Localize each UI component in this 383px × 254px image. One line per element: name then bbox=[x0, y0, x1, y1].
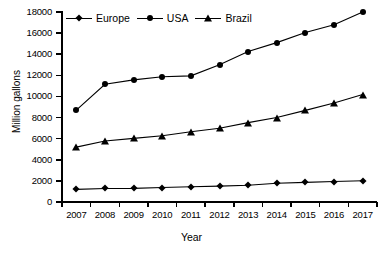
data-point-usa-2010 bbox=[159, 74, 165, 80]
legend-line-europe bbox=[66, 18, 92, 19]
legend-item-brazil: Brazil bbox=[195, 13, 258, 24]
y-tick-label: 4000 bbox=[0, 155, 52, 165]
data-point-brazil-2010 bbox=[158, 132, 166, 139]
x-tick bbox=[204, 202, 206, 207]
y-tick bbox=[56, 117, 61, 119]
data-point-usa-2009 bbox=[131, 77, 137, 83]
data-point-brazil-2007 bbox=[72, 144, 80, 151]
y-tick-label: 12000 bbox=[0, 70, 52, 80]
chart-legend: Europe USA Brazil bbox=[66, 13, 259, 24]
data-point-brazil-2014 bbox=[273, 114, 281, 121]
y-tick bbox=[56, 138, 61, 140]
x-tick bbox=[233, 202, 235, 207]
y-tick bbox=[56, 11, 61, 13]
data-point-usa-2013 bbox=[245, 49, 251, 55]
x-tick bbox=[348, 202, 350, 207]
legend-item-usa: USA bbox=[137, 13, 196, 24]
y-tick-label: 6000 bbox=[0, 134, 52, 144]
data-point-brazil-2013 bbox=[244, 119, 252, 126]
x-tick bbox=[262, 202, 264, 207]
data-point-usa-2016 bbox=[331, 22, 337, 28]
series-lines bbox=[62, 12, 377, 202]
x-tick bbox=[147, 202, 149, 207]
x-axis-line bbox=[61, 201, 377, 203]
y-tick-label: 18000 bbox=[0, 7, 52, 17]
data-point-brazil-2008 bbox=[101, 137, 109, 144]
y-tick bbox=[56, 53, 61, 55]
series-line-brazil bbox=[76, 95, 362, 148]
x-tick bbox=[290, 202, 292, 207]
data-point-usa-2011 bbox=[188, 73, 194, 79]
legend-line-usa bbox=[137, 18, 163, 19]
triangle-marker-icon bbox=[204, 15, 212, 22]
data-point-brazil-2012 bbox=[216, 125, 224, 132]
plot-area bbox=[62, 12, 377, 202]
x-axis-title: Year bbox=[0, 231, 383, 243]
x-tick bbox=[376, 202, 378, 207]
data-point-usa-2007 bbox=[73, 107, 79, 113]
x-tick-label: 2017 bbox=[346, 210, 380, 220]
line-chart: 0200040006000800010000120001400016000180… bbox=[0, 0, 383, 254]
x-tick bbox=[319, 202, 321, 207]
x-tick bbox=[176, 202, 178, 207]
diamond-marker-icon bbox=[75, 15, 82, 22]
data-point-brazil-2009 bbox=[130, 135, 138, 142]
data-point-brazil-2016 bbox=[330, 99, 338, 106]
legend-label-brazil: Brazil bbox=[225, 13, 251, 24]
y-tick-label: 14000 bbox=[0, 49, 52, 59]
y-tick-label: 8000 bbox=[0, 113, 52, 123]
data-point-usa-2014 bbox=[274, 40, 280, 46]
y-axis-title: Million gallons bbox=[11, 42, 22, 162]
data-point-usa-2012 bbox=[217, 62, 223, 68]
y-tick-label: 10000 bbox=[0, 91, 52, 101]
y-tick bbox=[56, 180, 61, 182]
legend-label-usa: USA bbox=[167, 13, 189, 24]
legend-item-europe: Europe bbox=[66, 13, 137, 24]
y-tick bbox=[56, 96, 61, 98]
y-tick bbox=[56, 75, 61, 77]
circle-marker-icon bbox=[147, 15, 153, 21]
y-axis-line bbox=[61, 11, 63, 203]
data-point-brazil-2011 bbox=[187, 128, 195, 135]
data-point-usa-2017 bbox=[360, 9, 366, 15]
y-tick-label: 2000 bbox=[0, 176, 52, 186]
legend-label-europe: Europe bbox=[96, 13, 130, 24]
data-point-brazil-2015 bbox=[301, 107, 309, 114]
y-tick-label: 16000 bbox=[0, 28, 52, 38]
data-point-usa-2008 bbox=[102, 81, 108, 87]
y-tick bbox=[56, 159, 61, 161]
y-tick bbox=[56, 201, 61, 203]
legend-line-brazil bbox=[195, 18, 221, 19]
x-tick bbox=[119, 202, 121, 207]
y-tick bbox=[56, 32, 61, 34]
y-tick-label: 0 bbox=[0, 197, 52, 207]
data-point-usa-2015 bbox=[302, 30, 308, 36]
data-point-brazil-2017 bbox=[359, 91, 367, 98]
x-tick bbox=[90, 202, 92, 207]
x-tick bbox=[61, 202, 63, 207]
